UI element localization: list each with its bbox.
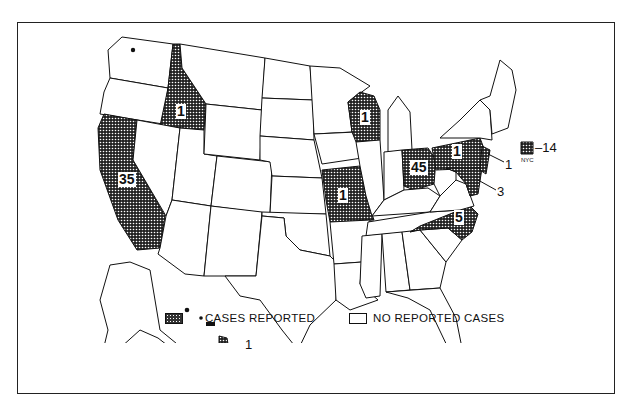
state-co	[211, 156, 272, 214]
label-pa: 1	[452, 144, 462, 159]
wa-mark	[131, 48, 135, 52]
label-id: 1	[176, 104, 186, 119]
state-nj	[480, 146, 490, 174]
state-wy	[204, 104, 262, 160]
md-leader	[478, 180, 496, 190]
legend: CASES REPORTED NO REPORTED CASES	[165, 312, 505, 324]
label-nyc-value: –14	[535, 140, 557, 155]
state-ny	[440, 100, 492, 140]
label-nc: 5	[454, 210, 464, 225]
state-mi	[388, 96, 412, 152]
label-md: 3	[497, 184, 504, 199]
no-cases-swatch	[349, 313, 367, 324]
label-nyc: NYC	[521, 157, 534, 163]
label-hi: 1	[245, 337, 252, 352]
label-wi: 1	[360, 110, 370, 125]
state-nd	[262, 58, 313, 100]
state-ak	[100, 262, 182, 343]
label-ca: 35	[118, 172, 136, 187]
legend-cases-reported: CASES REPORTED	[205, 312, 315, 324]
state-sd	[260, 98, 314, 140]
nyc-swatch	[521, 142, 533, 154]
state-ks	[270, 176, 326, 214]
label-oh: 45	[410, 160, 428, 175]
nj-leader	[488, 154, 504, 162]
state-nm	[204, 206, 262, 276]
label-nj: 1	[505, 157, 512, 172]
cases-reported-swatch	[165, 313, 183, 324]
label-mo: 1	[338, 188, 348, 203]
state-ms	[360, 234, 382, 298]
legend-no-cases: NO REPORTED CASES	[373, 312, 504, 324]
